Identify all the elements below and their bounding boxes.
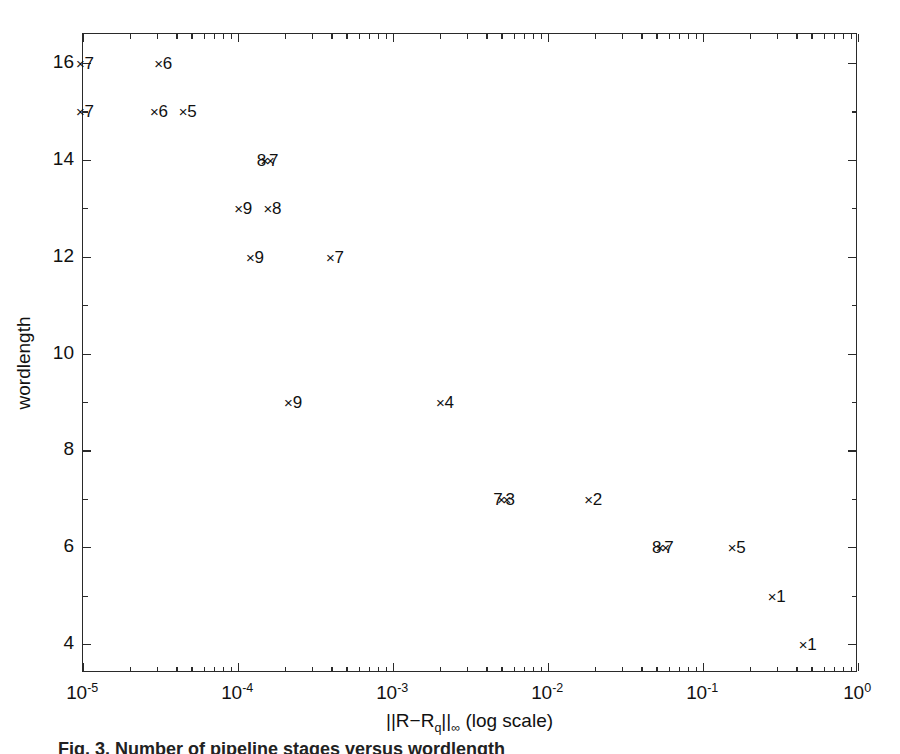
x-tick-minor <box>285 667 286 672</box>
data-point-marker: ×7 <box>261 151 279 168</box>
x-tick-minor <box>369 667 370 672</box>
y-tick-minor <box>83 402 88 403</box>
y-tick-label: 14 <box>53 148 74 170</box>
plot-area: ×7×6×7×6×58××7×9×8×9×7×9×4×37××2×78××5×1… <box>82 33 857 672</box>
x-tick-minor <box>688 667 689 672</box>
x-tick-exponent: -2 <box>552 681 563 695</box>
x-tick-minor <box>595 667 596 672</box>
x-tick-minor <box>641 667 642 672</box>
y-tick-label: 8 <box>63 438 74 460</box>
x-tick-top-minor <box>541 34 542 39</box>
data-point-label: 1 <box>807 634 816 653</box>
x-tick-minor <box>501 667 502 672</box>
x-tick-mantissa: 10 <box>686 682 707 703</box>
y-tick-major <box>83 644 91 645</box>
cross-marker-icon: × <box>154 55 163 72</box>
data-point-marker: ×4 <box>436 393 454 410</box>
y-tick-major <box>83 450 91 451</box>
x-tick-minor <box>231 667 232 672</box>
data-point-marker: ×5 <box>179 103 197 120</box>
data-point-marker: ×6 <box>154 55 172 72</box>
y-tick-right-minor <box>852 499 857 500</box>
x-tick-minor <box>811 667 812 672</box>
cross-marker-icon: × <box>234 200 243 217</box>
x-tick-exponent: -3 <box>397 681 408 695</box>
x-tick-top-minor <box>843 34 844 39</box>
data-point-label: 8 <box>272 199 281 218</box>
x-tick-minor <box>176 667 177 672</box>
data-point-marker: ×9 <box>234 200 252 217</box>
figure-caption: Fig. 3. Number of pipeline stages versus… <box>58 739 858 754</box>
data-point-marker: ×5 <box>728 539 746 556</box>
data-point-marker: ×1 <box>768 587 786 604</box>
x-tick-minor <box>486 667 487 672</box>
y-tick-right-minor <box>852 305 857 306</box>
x-tick-top-minor <box>824 34 825 39</box>
x-tick-top-minor <box>750 34 751 39</box>
cross-marker-icon: × <box>661 539 670 556</box>
x-tick-minor <box>386 667 387 672</box>
cross-marker-icon: × <box>326 248 335 265</box>
x-tick-exponent: 0 <box>864 681 871 695</box>
x-tick-top-minor <box>688 34 689 39</box>
data-point-marker: ×9 <box>246 248 264 265</box>
x-tick-top-minor <box>501 34 502 39</box>
x-tick-minor <box>541 667 542 672</box>
x-tick-top-major <box>548 34 549 42</box>
cross-marker-icon: × <box>284 393 293 410</box>
x-tick-top-minor <box>346 34 347 39</box>
data-point-label: 5 <box>736 538 745 557</box>
data-point-marker: ×6 <box>150 103 168 120</box>
cross-marker-icon: × <box>246 248 255 265</box>
x-tick-top-minor <box>514 34 515 39</box>
x-tick-major <box>858 663 859 671</box>
y-tick-major <box>83 257 91 258</box>
x-label-subscript-infinity: ∞ <box>451 721 460 735</box>
cross-marker-icon: × <box>76 103 85 120</box>
cross-marker-icon: × <box>261 151 270 168</box>
x-tick-top-minor <box>679 34 680 39</box>
x-label-suffix: (log scale) <box>460 710 553 731</box>
cross-marker-icon: × <box>799 635 808 652</box>
x-tick-minor <box>130 667 131 672</box>
x-label-prefix: ||R−R <box>386 710 434 731</box>
x-tick-top-minor <box>191 34 192 39</box>
x-tick-top-minor <box>641 34 642 39</box>
y-tick-minor <box>83 208 88 209</box>
x-tick-minor <box>346 667 347 672</box>
data-point-marker: ×1 <box>799 635 817 652</box>
x-tick-top-minor <box>369 34 370 39</box>
x-tick-top-minor <box>851 34 852 39</box>
x-tick-label: 10-4 <box>221 682 253 704</box>
y-tick-label: 6 <box>63 535 74 557</box>
y-tick-major <box>83 354 91 355</box>
y-tick-right-minor <box>852 402 857 403</box>
x-tick-minor <box>622 667 623 672</box>
y-tick-minor <box>83 596 88 597</box>
data-point-label: 4 <box>445 392 454 411</box>
x-tick-label: 10-2 <box>531 682 563 704</box>
data-point-label: 6 <box>159 102 168 121</box>
y-tick-right-minor <box>852 111 857 112</box>
x-tick-top-minor <box>285 34 286 39</box>
cross-marker-icon: × <box>263 200 272 217</box>
x-tick-mantissa: 10 <box>376 682 397 703</box>
data-point-label: 9 <box>293 392 302 411</box>
x-tick-minor <box>440 667 441 672</box>
x-tick-major <box>238 663 239 671</box>
y-tick-label: 16 <box>53 51 74 73</box>
y-tick-right-major <box>848 257 856 258</box>
y-tick-right-minor <box>852 596 857 597</box>
x-tick-top-minor <box>157 34 158 39</box>
x-tick-minor <box>204 667 205 672</box>
y-tick-label: 10 <box>53 342 74 364</box>
x-tick-minor <box>378 667 379 672</box>
x-tick-top-minor <box>386 34 387 39</box>
x-tick-top-minor <box>223 34 224 39</box>
cross-marker-icon: × <box>502 490 511 507</box>
x-tick-mantissa: 10 <box>531 682 552 703</box>
x-tick-major <box>393 663 394 671</box>
y-tick-major <box>83 160 91 161</box>
x-tick-top-major <box>703 34 704 42</box>
x-tick-top-major <box>393 34 394 42</box>
